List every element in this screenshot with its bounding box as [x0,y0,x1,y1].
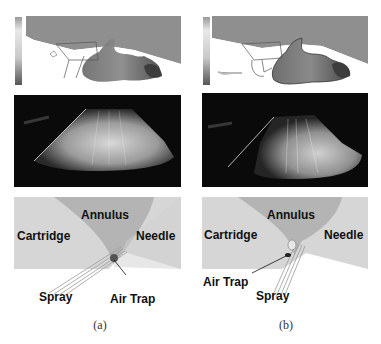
label-spray-b: Spray [256,289,289,303]
label-air-trap-a: Air Trap [110,292,155,306]
panel-a-spray-photo [14,95,181,187]
panel-a-simulation [14,16,181,86]
caption-a: (a) [80,318,120,333]
label-annulus-b: Annulus [267,208,315,222]
label-cartridge-b: Cartridge [204,228,257,242]
label-annulus-a: Annulus [81,208,129,222]
panel-b-simulation [202,16,368,86]
label-needle-b: Needle [324,228,363,242]
label-air-trap-b: Air Trap [203,275,248,289]
caption-b: (b) [266,318,306,333]
panel-b-spray-photo [202,93,368,187]
label-needle-a: Needle [136,229,175,243]
label-spray-a: Spray [39,290,72,304]
colorbar [15,17,22,85]
label-cartridge-a: Cartridge [17,229,70,243]
